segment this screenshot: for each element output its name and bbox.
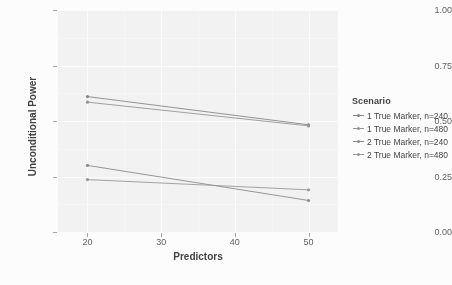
y-tick-mark xyxy=(53,232,57,233)
series-group xyxy=(86,178,310,191)
series-point xyxy=(307,188,310,191)
y-axis-title: Unconditional Power xyxy=(27,27,38,227)
y-tick-mark xyxy=(53,121,57,122)
legend-key-point xyxy=(357,153,360,156)
legend-item-label: 1 True Marker, n=240 xyxy=(367,111,448,121)
legend-item-label: 2 True Marker, n=480 xyxy=(367,150,448,160)
legend-item[interactable]: 2 True Marker, n=240 xyxy=(352,135,452,148)
y-tick-mark xyxy=(53,177,57,178)
legend-item[interactable]: 2 True Marker, n=480 xyxy=(352,148,452,161)
legend-title: Scenario xyxy=(352,96,452,106)
legend-item[interactable]: 1 True Marker, n=480 xyxy=(352,122,452,135)
y-tick-label: 1.00 xyxy=(408,5,452,15)
gridline-y-major xyxy=(58,232,338,233)
x-tick-label: 20 xyxy=(82,237,92,247)
legend-item-label: 2 True Marker, n=240 xyxy=(367,137,448,147)
x-axis-title: Predictors xyxy=(58,251,338,262)
series-point xyxy=(86,95,89,98)
gridline-x-minor xyxy=(51,10,52,232)
legend-items: 1 True Marker, n=2401 True Marker, n=480… xyxy=(352,109,452,161)
legend-key-point xyxy=(357,140,360,143)
y-tick-label: 0.25 xyxy=(408,172,452,182)
legend-item-label: 1 True Marker, n=480 xyxy=(367,124,448,134)
legend-key-icon xyxy=(352,148,365,161)
series-line xyxy=(87,102,308,126)
series-line xyxy=(87,97,308,125)
series-point xyxy=(86,101,89,104)
data-series-layer xyxy=(58,10,338,232)
series-point xyxy=(86,164,89,167)
series-group xyxy=(86,164,310,202)
legend-key-icon xyxy=(352,122,365,135)
y-tick-mark xyxy=(53,66,57,67)
chart-figure: 0.000.250.500.751.00 20304050 Predictors… xyxy=(0,0,452,285)
y-tick-label: 0.00 xyxy=(408,227,452,237)
x-tick-label: 40 xyxy=(230,237,240,247)
legend-key-icon xyxy=(352,109,365,122)
series-group xyxy=(86,101,310,128)
x-tick-mark xyxy=(161,233,162,237)
x-tick-label: 50 xyxy=(304,237,314,247)
x-tick-mark xyxy=(235,233,236,237)
x-tick-mark xyxy=(309,233,310,237)
y-tick-mark xyxy=(53,10,57,11)
legend-item[interactable]: 1 True Marker, n=240 xyxy=(352,109,452,122)
series-point xyxy=(307,199,310,202)
series-group xyxy=(86,95,310,126)
legend-key-icon xyxy=(352,135,365,148)
legend-key-point xyxy=(357,127,360,130)
series-point xyxy=(307,124,310,127)
series-line xyxy=(87,165,308,200)
legend: Scenario 1 True Marker, n=2401 True Mark… xyxy=(352,96,452,161)
x-tick-label: 30 xyxy=(156,237,166,247)
series-point xyxy=(86,178,89,181)
series-line xyxy=(87,180,308,190)
x-tick-mark xyxy=(87,233,88,237)
y-tick-label: 0.75 xyxy=(408,61,452,71)
gridline-x-minor xyxy=(345,10,346,232)
legend-key-point xyxy=(357,114,360,117)
